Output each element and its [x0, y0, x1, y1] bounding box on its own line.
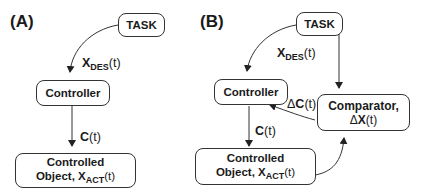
panel-b-xdes-label: XDES(t) — [277, 46, 316, 62]
panel-a-c-label: C(t) — [80, 130, 101, 144]
panel-a-controlled-object-node: Controlled Object, XACT(t) — [15, 153, 136, 188]
panel-b-controlled-object-node: Controlled Object, XACT(t) — [195, 148, 316, 185]
panel-a-task-node: TASK — [118, 13, 165, 37]
panel-a-controller-node: Controller — [36, 80, 110, 106]
panel-b-c-label: C(t) — [255, 124, 276, 138]
panel-b-delta-c-label: ΔC(t) — [287, 97, 316, 111]
panel-b-comparator-node: Comparator, ΔX(t) — [317, 94, 410, 131]
panel-a-label: (A) — [10, 12, 34, 32]
panel-a-xdes-label: XDES(t) — [82, 56, 121, 72]
panel-b-controller-node: Controller — [214, 79, 288, 105]
panel-b-task-node: TASK — [296, 12, 343, 36]
panel-b-label: (B) — [200, 12, 224, 32]
